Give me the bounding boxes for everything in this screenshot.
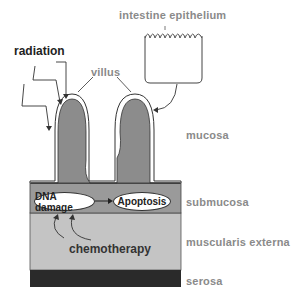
submucosa-label: submucosa bbox=[186, 196, 249, 208]
dna-damage-node: DNA damage bbox=[34, 192, 95, 211]
apoptosis-node: Apoptosis bbox=[113, 192, 171, 211]
serosa-label: serosa bbox=[186, 275, 223, 287]
radiation-label: radiation bbox=[14, 44, 65, 58]
serosa-layer bbox=[30, 270, 181, 287]
villus-label: villus bbox=[91, 66, 120, 78]
epithelium-box bbox=[145, 36, 202, 83]
mucosa-label: mucosa bbox=[186, 129, 229, 141]
chemotherapy-label: chemotherapy bbox=[69, 242, 151, 256]
muscularis-label: muscularis externa bbox=[186, 236, 290, 248]
epithelium-label: intestine epithelium bbox=[119, 9, 226, 21]
